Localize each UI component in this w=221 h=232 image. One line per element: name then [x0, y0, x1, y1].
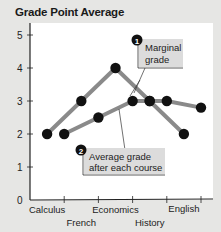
data-point: [59, 129, 69, 139]
svg-text:1: 1: [135, 37, 140, 46]
x-category-label: French: [67, 217, 97, 228]
y-tick-label: 4: [17, 63, 23, 74]
data-point: [76, 96, 86, 106]
y-tick-label: 1: [17, 162, 23, 173]
data-point: [196, 102, 206, 112]
data-point: [93, 112, 103, 122]
y-tick-label: 0: [17, 195, 23, 206]
x-category-label: English: [168, 203, 199, 214]
y-tick-label: 2: [17, 129, 23, 140]
data-point: [42, 129, 52, 139]
callout-label: Average grade: [89, 151, 151, 162]
data-point: [162, 96, 172, 106]
callout-label: grade: [145, 54, 169, 65]
x-category-label: Calculus: [29, 204, 66, 215]
svg-text:2: 2: [79, 147, 84, 156]
callout-label: Marginal: [145, 42, 181, 53]
x-category-label: Economics: [92, 204, 139, 215]
y-tick-label: 5: [17, 30, 23, 41]
data-point: [110, 63, 120, 73]
data-point: [179, 129, 189, 139]
y-tick-label: 3: [17, 96, 23, 107]
callout-label: after each course: [89, 162, 162, 173]
x-category-label: History: [135, 217, 165, 228]
data-point: [127, 96, 137, 106]
line-chart: 012345CalculusFrenchEconomicsHistoryEngl…: [0, 0, 221, 232]
data-point: [145, 96, 155, 106]
